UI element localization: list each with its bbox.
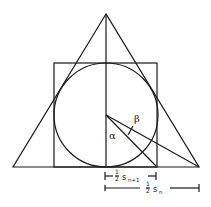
subscript-n-plus-1: n+1 <box>128 177 140 183</box>
fraction-numerator: 1 <box>146 180 150 187</box>
s-variable: s <box>122 173 126 182</box>
line-to-triangle-corner <box>106 115 199 167</box>
beta-label: β <box>134 113 140 124</box>
subscript-n: n <box>159 189 163 195</box>
dimension-half-s-n: 1 2 s n <box>105 180 199 195</box>
fraction-denominator: 2 <box>115 175 119 182</box>
geometry-diagram: α β 1 2 s n+1 1 2 s n <box>0 0 211 207</box>
fraction-numerator: 1 <box>115 168 119 175</box>
alpha-label: α <box>109 130 116 141</box>
line-to-square-corner <box>106 115 157 167</box>
fraction-denominator: 2 <box>146 187 150 194</box>
s-variable: s <box>153 185 157 194</box>
